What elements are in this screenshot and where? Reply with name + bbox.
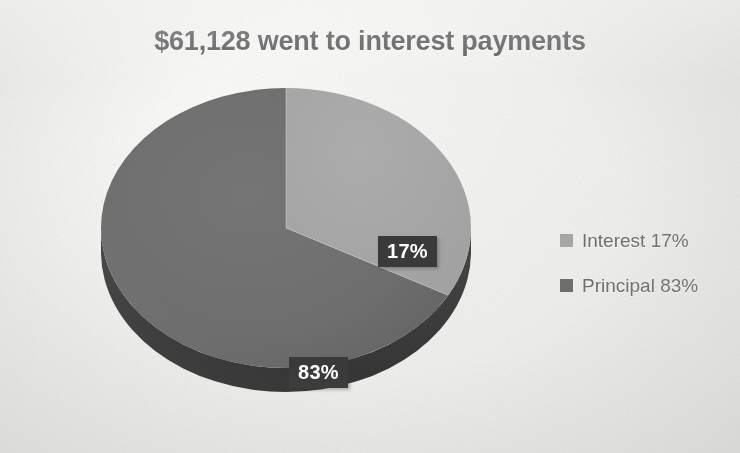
legend-swatch-principal: [560, 279, 573, 292]
legend-label-interest: Interest 17%: [582, 230, 689, 252]
pie-chart-figure: $61,128 went to interest payments: [0, 0, 740, 453]
legend-item-principal[interactable]: Principal 83%: [560, 263, 738, 308]
data-label-principal: 83%: [289, 357, 348, 388]
chart-legend: Interest 17% Principal 83%: [560, 218, 738, 308]
legend-swatch-interest: [560, 234, 573, 247]
legend-item-interest[interactable]: Interest 17%: [560, 218, 738, 263]
chart-title: $61,128 went to interest payments: [0, 26, 740, 57]
pie-plot-area: 17% 83%: [86, 88, 486, 408]
legend-label-principal: Principal 83%: [582, 275, 698, 297]
data-label-interest: 17%: [378, 236, 437, 267]
